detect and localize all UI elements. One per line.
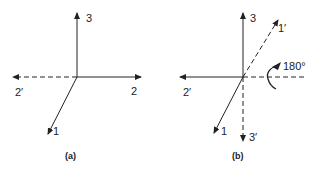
axis-2prime-label: 2′ [15,86,23,98]
panel-a: 3 2 2′ 1 (a) [13,12,141,161]
panel-b: 3 1′ 2′ 1 3′ 180° (b) [180,12,306,161]
axis-1prime-arrow [243,20,278,77]
axis-3-label: 3 [86,12,92,24]
rotation-angle-label: 180° [283,60,306,72]
axis-1-label: 1 [53,125,59,137]
axis-3-label: 3 [250,12,256,24]
axes-rotation-diagram: 3 2 2′ 1 (a) 3 1′ 2′ 1 3′ 180° (b) [0,0,320,171]
axis-2prime-label: 2′ [183,86,191,98]
axis-3prime-label: 3′ [249,131,257,143]
axis-1prime-label: 1′ [278,22,286,34]
axis-1-label: 1 [221,125,227,137]
caption-b: (b) [232,151,244,161]
caption-a: (a) [65,151,76,161]
axis-2-label: 2 [131,85,137,97]
axis-1-arrow [214,77,243,133]
rotation-arrowhead-icon [272,62,281,70]
